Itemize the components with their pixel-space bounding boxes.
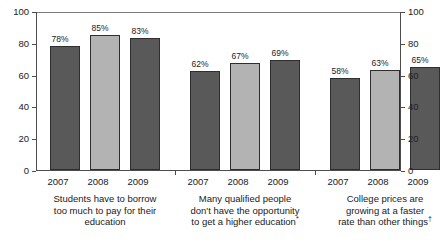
group-caption: Many qualified peopledon't have the oppo…	[172, 193, 318, 228]
y-axis-tick-right	[401, 171, 405, 172]
bar	[270, 60, 300, 170]
x-axis-year-label: 2008	[76, 176, 120, 187]
y-axis-tick-left	[32, 44, 36, 45]
group-separator-tick	[175, 171, 176, 175]
x-axis-year-label: 2008	[356, 176, 400, 187]
y-axis-label-right: 80	[408, 39, 434, 49]
bar	[130, 38, 160, 170]
y-axis-tick-left	[32, 76, 36, 77]
plot-area	[36, 12, 401, 171]
y-axis-tick-left	[32, 139, 36, 140]
x-axis	[36, 170, 401, 171]
group-caption-line: to get a higher education*	[172, 216, 318, 228]
x-axis-year-label: 2009	[396, 176, 440, 187]
bar	[330, 78, 360, 170]
y-axis-tick-right	[401, 44, 405, 45]
y-axis-label-left: 60	[3, 71, 29, 81]
y-axis-label-right: 40	[408, 102, 434, 112]
x-axis-year-label: 2007	[176, 176, 220, 187]
bar-value-label: 65%	[400, 55, 440, 65]
y-axis-label-right: 0	[408, 166, 434, 176]
y-axis-right	[400, 12, 401, 171]
bar-value-label: 63%	[360, 58, 400, 68]
y-axis-label-left: 20	[3, 134, 29, 144]
y-axis-label-right: 20	[408, 134, 434, 144]
y-axis-tick-right	[401, 12, 405, 13]
y-axis-tick-right	[401, 76, 405, 77]
y-axis-label-left: 0	[3, 166, 29, 176]
bar-value-label: 62%	[180, 59, 220, 69]
group-caption-line: College prices are	[312, 193, 444, 205]
bar	[370, 70, 400, 170]
y-axis-tick-left	[32, 171, 36, 172]
bar	[90, 35, 120, 170]
group-caption-line: growing at a faster	[312, 205, 444, 217]
y-axis-tick-left	[32, 12, 36, 13]
group-caption-footnote-marker: †	[428, 215, 432, 222]
bar	[190, 71, 220, 170]
x-axis-year-label: 2009	[256, 176, 300, 187]
group-caption-line: rate than other things†	[312, 216, 444, 228]
group-caption: College prices aregrowing at a fasterrat…	[312, 193, 444, 228]
x-axis-year-label: 2007	[316, 176, 360, 187]
bar-value-label: 58%	[320, 66, 360, 76]
x-axis-year-label: 2008	[216, 176, 260, 187]
y-axis-tick-right	[401, 139, 405, 140]
bar	[50, 46, 80, 170]
bar-value-label: 83%	[120, 26, 160, 36]
bar-value-label: 78%	[40, 34, 80, 44]
group-caption-line: education	[32, 216, 178, 228]
y-axis-label-right: 100	[408, 7, 434, 17]
y-axis-tick-left	[32, 107, 36, 108]
group-caption: Students have to borrowtoo much to pay f…	[32, 193, 178, 228]
group-caption-line: Students have to borrow	[32, 193, 178, 205]
group-caption-line: too much to pay for their	[32, 205, 178, 217]
x-axis-year-label: 2007	[36, 176, 80, 187]
bar	[410, 67, 440, 170]
y-axis-label-left: 80	[3, 39, 29, 49]
x-axis-year-label: 2009	[116, 176, 160, 187]
bar-value-label: 67%	[220, 51, 260, 61]
group-caption-footnote-marker: *	[296, 215, 299, 222]
group-separator-tick	[315, 171, 316, 175]
bar-value-label: 85%	[80, 23, 120, 33]
bar-value-label: 69%	[260, 48, 300, 58]
y-axis-tick-right	[401, 107, 405, 108]
y-axis-label-left: 100	[3, 7, 29, 17]
y-axis-label-left: 40	[3, 102, 29, 112]
group-caption-line: Many qualified people	[172, 193, 318, 205]
bar	[230, 63, 260, 170]
y-axis-label-right: 60	[408, 71, 434, 81]
y-axis-left	[36, 12, 37, 171]
axis-line-top	[36, 12, 401, 13]
